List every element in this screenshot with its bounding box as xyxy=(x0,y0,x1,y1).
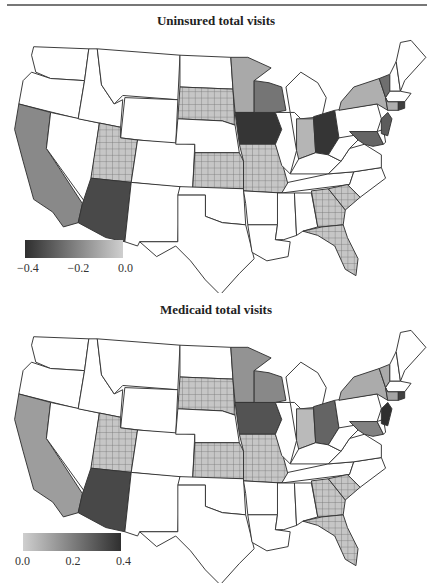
tick-label: 0.0 xyxy=(15,554,30,569)
state-fl xyxy=(303,515,358,566)
state-ks xyxy=(193,153,244,189)
state-ms xyxy=(275,483,296,530)
state-ia xyxy=(235,112,282,144)
state-wy xyxy=(121,388,178,435)
state-mt xyxy=(97,339,180,394)
top-rule xyxy=(7,4,427,6)
state-me xyxy=(396,330,426,381)
state-nd xyxy=(180,55,233,89)
panel-title-medicaid: Medicaid total visits xyxy=(0,302,432,318)
state-wi xyxy=(254,371,286,403)
colorbar-gradient xyxy=(23,533,121,551)
state-wi xyxy=(254,81,286,113)
state-me xyxy=(396,40,426,91)
state-nj xyxy=(381,112,392,135)
state-mi xyxy=(286,362,326,409)
state-mi xyxy=(286,72,326,119)
state-ks xyxy=(193,443,244,479)
state-ar xyxy=(244,481,282,515)
state-ma xyxy=(386,91,411,102)
state-nm xyxy=(125,182,180,246)
state-fl xyxy=(303,225,358,276)
panel-title-uninsured: Uninsured total visits xyxy=(0,13,432,29)
state-ri xyxy=(398,102,404,110)
tick-label: 0.2 xyxy=(66,554,81,569)
tick-label: −0.4 xyxy=(17,261,39,276)
state-co xyxy=(131,140,195,189)
state-co xyxy=(131,430,195,479)
colorbar-ticks: −0.4 −0.2 0.0 xyxy=(17,261,133,276)
state-wy xyxy=(121,98,178,145)
colorbar-ticks: 0.0 0.2 0.4 xyxy=(15,554,131,569)
colorbar-gradient xyxy=(25,240,123,258)
tick-label: 0.0 xyxy=(118,261,133,276)
state-ms xyxy=(275,193,296,240)
state-nm xyxy=(125,472,180,536)
state-ma xyxy=(386,381,411,392)
state-ia xyxy=(235,402,282,434)
state-nj xyxy=(381,402,392,425)
state-ar xyxy=(244,191,282,225)
state-in xyxy=(297,119,316,159)
state-nd xyxy=(180,345,233,379)
tick-label: −0.2 xyxy=(68,261,90,276)
state-in xyxy=(297,409,316,449)
state-mt xyxy=(97,49,180,104)
tick-label: 0.4 xyxy=(116,554,131,569)
state-ri xyxy=(398,392,404,400)
